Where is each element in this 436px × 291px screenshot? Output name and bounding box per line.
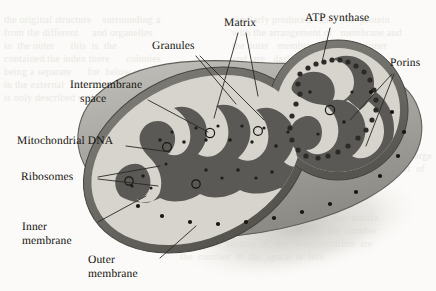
leader-matrix-1 — [214, 33, 238, 118]
label-mitochondrial-dna: Mitochondrial DNA — [17, 135, 113, 149]
leader-granules-1 — [196, 56, 236, 104]
leader-granules-2 — [200, 56, 264, 120]
label-outer-membrane: Outer — [88, 254, 115, 268]
leader-dna — [126, 146, 170, 152]
label-inner-membrane: Inner — [22, 221, 47, 235]
leader-inner-membrane — [98, 196, 146, 222]
leader-ribosomes-2 — [98, 179, 158, 186]
label-inner-membrane-line2: membrane — [22, 235, 72, 249]
label-granules: Granules — [152, 40, 195, 54]
label-ribosomes: Ribosomes — [21, 171, 73, 185]
leader-porins-1 — [350, 74, 392, 120]
label-outer-membrane-line2: membrane — [88, 268, 138, 282]
leader-atp — [322, 28, 330, 62]
leader-ribosomes-1 — [98, 166, 160, 177]
mitochondrion-figure: the original structure surrounding a fro… — [0, 0, 436, 291]
leader-matrix-2 — [246, 33, 258, 96]
label-matrix: Matrix — [224, 17, 256, 31]
label-intermembrane-space-line2: space — [80, 93, 106, 107]
label-atp-synthase: ATP synthase — [305, 12, 369, 26]
leader-outer-membrane — [160, 226, 196, 258]
leader-intermembrane — [148, 100, 208, 132]
label-porins: Porins — [390, 57, 420, 71]
leader-porins-2 — [366, 74, 394, 146]
label-intermembrane-space: Intermembrane — [70, 79, 142, 93]
